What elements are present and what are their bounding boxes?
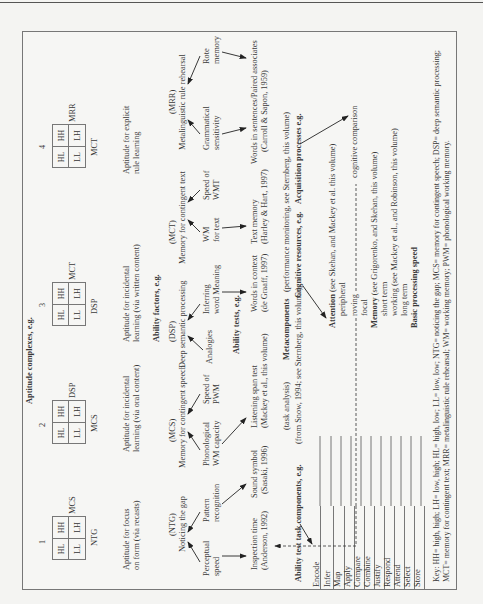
factor-ntg-input-1b: speed — [212, 557, 222, 576]
complex-3-axis-bottom: DSP — [90, 299, 100, 314]
complex-1-axis-right: MCS — [68, 496, 78, 514]
factor-mcs-input-1a: Phonological — [202, 422, 212, 466]
test-inspection-time-ref: (Anderson, 1992) — [260, 511, 270, 570]
grid-cell: LL — [69, 538, 85, 559]
factor-ntg-input-1a: Perceptual — [202, 541, 212, 576]
complex-4-number: 4 — [38, 145, 48, 149]
factor-dsp-input-2b: word Meaning — [212, 265, 222, 314]
complex-3-grid: HL HH LL LH — [52, 282, 86, 326]
test-sound-symbol-ref: (Sasaki, 1996) — [260, 446, 270, 494]
factor-mrr-input-2b: memory — [212, 36, 222, 64]
complex-1-desc-2: on form (via recasts) — [132, 500, 142, 570]
task-components-heading: Ability test task components, e.g. — [294, 465, 304, 582]
factor-ntg-abbr: (NTG) — [168, 513, 178, 536]
factor-dsp-input-1: Analogies — [205, 330, 215, 364]
grid-cell: LL — [69, 304, 85, 325]
factor-mrr-name: Metalinguistic rule rehearsal — [178, 54, 188, 150]
complex-2-desc-1: Aptitude for incidental — [122, 376, 132, 452]
performance-monitoring-label: (performance monitoring, see Sternberg, … — [282, 112, 292, 292]
complex-3-desc-2: learning (via written content) — [132, 244, 142, 342]
factor-ntg-name: Noticing the gap — [178, 496, 188, 552]
test-listening-span: Listening span test — [250, 365, 260, 428]
grid-cell: HL — [53, 304, 69, 325]
grid-cell: HH — [53, 125, 69, 146]
test-words-in-sentences-ref: (Carroll & Sapon, 1959) — [260, 70, 270, 152]
factor-mct-name: Memory for contingent text — [178, 171, 188, 264]
test-listening-span-ref: (Mackey et al., this volume) — [260, 334, 270, 428]
ability-tests-heading: Ability tests, e.g. — [232, 295, 242, 354]
factor-dsp-name: Deep semantic processing — [178, 281, 188, 368]
cognitive-comparison-label: cognitive comparison — [350, 104, 360, 180]
grid-cell: LH — [69, 125, 85, 146]
factor-mct-input-1a: WM — [202, 227, 212, 242]
test-words-in-context-ref: (de Graaff, 1997) — [260, 254, 270, 312]
cognitive-resources-heading: Cognitive resources, e.g. — [294, 212, 304, 298]
grid-cell: HH — [53, 401, 69, 422]
complex-4-grid: HL HH LL LH — [52, 124, 86, 168]
factor-mcs-input-2b: PWM — [212, 384, 222, 404]
complex-3-desc-1: Aptitude for incidental — [122, 266, 132, 342]
complex-2-number: 2 — [38, 423, 48, 427]
grid-cell: LH — [69, 283, 85, 304]
basic-processing-speed: Basic processing speed — [410, 247, 420, 328]
grid-cell: HL — [53, 538, 69, 559]
factor-ntg-input-2b: recognition — [212, 484, 222, 522]
complex-3-axis-right: MCT — [68, 262, 78, 280]
test-words-in-sentences: Words in sentences/Paired associates — [250, 40, 260, 164]
complex-4-desc-1: Aptitude for explicit — [122, 106, 132, 174]
attention-ref: (see Skehan, and Mackey et al. this volu… — [328, 144, 337, 294]
test-words-in-context: Words in context — [250, 255, 260, 312]
memory-ref: (see Grigorenko, and Skehan, this volume… — [370, 152, 379, 298]
attention-label: Attention — [328, 294, 337, 328]
grid-cell: HH — [53, 283, 69, 304]
metacomponents-label: Metacomponents — [282, 299, 292, 360]
memory-short-term: short term — [380, 282, 390, 316]
grid-cell: HL — [53, 422, 69, 443]
from-snow-label: (from Snow, 1994; see Sternberg, this vo… — [294, 287, 304, 444]
factor-mrr-abbr: (MRR) — [168, 90, 178, 114]
ability-factors-heading: Ability factors, e.g. — [152, 274, 162, 342]
complex-2-axis-bottom: MCS — [90, 414, 100, 432]
complex-3-number: 3 — [38, 303, 48, 307]
test-text-memory: Text memory — [250, 199, 260, 244]
rotated-figure: Aptitude complexes, e.g. 1 HL HH LL LH M… — [0, 0, 483, 604]
factor-dsp-abbr: (DSP) — [168, 321, 178, 342]
factor-mcs-abbr: (MCS) — [168, 419, 178, 442]
memory-label: Memory — [370, 297, 379, 328]
memory-item: Memory (see Grigorenko, and Skehan, this… — [370, 152, 380, 328]
complex-4-desc-2: rule learning — [132, 131, 142, 174]
complex-4-axis-bottom: MCT — [90, 138, 100, 156]
attention-peripheral: peripheral — [338, 282, 348, 316]
grid-cell: LL — [69, 146, 85, 167]
factor-mrr-input-2a: Rote — [202, 48, 212, 64]
memory-working: working (see Mackey et al., and Robinson… — [390, 128, 400, 316]
grid-cell: HL — [53, 146, 69, 167]
key-line-2: MCT= memory for contingent text; MRR= me… — [442, 140, 452, 582]
complex-1-number: 1 — [38, 540, 48, 544]
test-text-memory-ref: (Harley & Hart, 1997) — [260, 169, 270, 244]
grid-cell: LL — [69, 422, 85, 443]
factor-mrr-input-1b: sensitivity — [212, 116, 222, 150]
complex-1-axis-bottom: NTG — [90, 529, 100, 546]
complex-1-desc-1: Aptitude for focus — [122, 509, 132, 570]
attention-item: Attention (see Skehan, and Mackey et al.… — [328, 144, 338, 328]
complex-4-axis-right: MRR — [68, 103, 78, 122]
acquisition-processes-heading: Acquisition processes e.g. — [294, 113, 304, 204]
grid-cell: LH — [69, 517, 85, 538]
factor-mcs-name: Memory for contingent speech — [178, 365, 188, 468]
memory-long-term: long term — [400, 284, 410, 316]
key-line-1: Key: HH= high, high; LH= low, high; HL= … — [432, 50, 442, 582]
grid-cell: LH — [69, 401, 85, 422]
factor-dsp-input-2a: Inferring — [202, 284, 212, 314]
factor-mct-input-2a: Speed of — [202, 170, 212, 200]
factor-ntg-input-2a: Pattern — [202, 498, 212, 522]
factor-mct-input-1b: for text — [212, 218, 222, 242]
attention-roving: roving — [350, 292, 360, 316]
factor-mct-abbr: (MCT) — [168, 220, 178, 244]
complex-2-grid: HL HH LL LH — [52, 400, 86, 444]
factor-mcs-input-1b: WM capacity — [212, 421, 222, 466]
factor-mcs-input-2a: Speed of — [202, 374, 212, 404]
complex-1-grid: HL HH LL LH — [52, 516, 86, 560]
attention-focal: focal — [360, 299, 370, 316]
complex-2-axis-right: DSP — [68, 383, 78, 398]
